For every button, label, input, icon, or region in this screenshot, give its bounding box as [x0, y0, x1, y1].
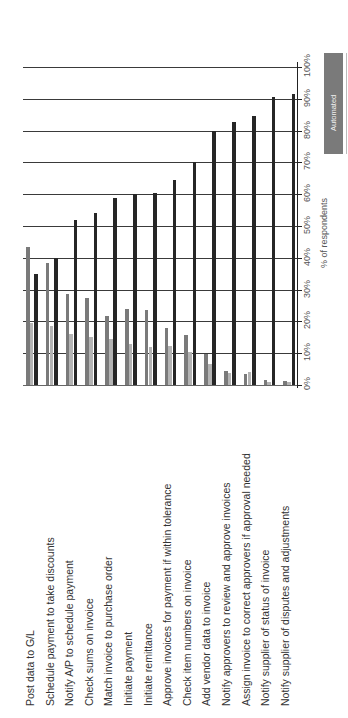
bar	[228, 373, 232, 385]
bar	[54, 258, 58, 385]
tick-label: 90%	[302, 89, 312, 107]
bar	[173, 180, 177, 385]
bar	[287, 382, 291, 385]
tick-label: 30%	[302, 280, 312, 298]
category-label: Match invoice to purchase order	[102, 557, 114, 706]
category-label: Notify supplier of disputes and adjustme…	[279, 506, 291, 706]
tick-label: 50%	[302, 216, 312, 234]
gridline	[23, 194, 297, 195]
bar	[208, 364, 212, 385]
bar	[153, 193, 157, 385]
bar	[69, 334, 73, 385]
gridline	[23, 162, 297, 163]
bar	[252, 116, 256, 385]
tick-label: 60%	[302, 184, 312, 202]
category-label: Initiate payment	[122, 632, 134, 706]
bar	[188, 352, 192, 385]
bar	[232, 122, 236, 385]
bar	[193, 162, 197, 385]
gridline	[23, 353, 297, 354]
category-label: Initiate remittance	[142, 623, 154, 706]
gridline	[23, 290, 297, 291]
gridline	[23, 67, 297, 68]
tick-label: 10%	[302, 343, 312, 361]
bar	[94, 213, 98, 385]
bar	[109, 339, 113, 385]
bar	[74, 220, 78, 385]
gridline	[23, 321, 297, 322]
category-label: Check sums on invoice	[83, 598, 95, 706]
category-label: Approve invoices for payment if within t…	[161, 484, 173, 706]
category-label: Check item numbers on invoice	[181, 560, 193, 706]
category-label: Notify A/P to schedule payment	[63, 560, 75, 706]
bar	[149, 347, 153, 385]
bar	[89, 337, 93, 385]
legend-next-swatch-edge	[346, 53, 347, 154]
tick-label: 40%	[302, 248, 312, 266]
rotated-bar-chart: 0%10%20%30%40%50%60%70%80%90%100% Post d…	[0, 0, 348, 718]
tick-label: 0%	[302, 377, 312, 390]
gridline	[23, 385, 297, 386]
bar	[292, 94, 296, 385]
gridline	[23, 99, 297, 100]
category-label: Post data to G/L	[24, 630, 36, 706]
bar	[248, 372, 252, 385]
bar	[267, 382, 271, 385]
bar	[34, 274, 38, 385]
value-axis-line	[297, 62, 298, 388]
gridline	[23, 131, 297, 132]
bar	[212, 131, 216, 385]
category-label: Schedule payment to take discounts	[44, 537, 56, 706]
bar	[129, 344, 133, 385]
category-label: Notify supplier of status of invoice	[259, 550, 271, 706]
bar	[30, 323, 34, 385]
tick-label: 80%	[302, 121, 312, 139]
value-axis-title: % of respondents	[319, 198, 329, 268]
tick-label: 20%	[302, 311, 312, 329]
tick-label: 100%	[302, 54, 312, 77]
bar	[113, 198, 117, 385]
bar	[272, 97, 276, 385]
tick-label: 70%	[302, 152, 312, 170]
bar	[168, 346, 172, 385]
legend-label-automated: Automated	[329, 95, 338, 131]
gridline	[23, 258, 297, 259]
category-label: Notify approvers to review and approve i…	[220, 482, 232, 706]
gridline	[23, 226, 297, 227]
category-label: Add vendor data to invoice	[200, 582, 212, 706]
bar	[133, 194, 137, 385]
category-label: Assign invoice to correct approvers if a…	[240, 453, 252, 706]
bar	[50, 326, 54, 385]
